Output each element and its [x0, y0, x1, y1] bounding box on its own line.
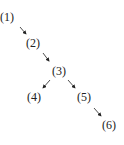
node-6: (6) — [102, 119, 116, 131]
node-3: (3) — [52, 65, 66, 77]
node-5: (5) — [77, 91, 91, 103]
node-1: (1) — [0, 11, 14, 23]
edge-1-2-arrow — [20, 27, 26, 34]
edge-3-5-arrow — [68, 80, 75, 88]
node-2: (2) — [26, 37, 40, 49]
node-4: (4) — [27, 91, 41, 103]
edge-5-6-arrow — [94, 108, 101, 116]
edge-3-4-arrow — [43, 80, 50, 88]
edge-2-3-arrow — [43, 53, 49, 61]
